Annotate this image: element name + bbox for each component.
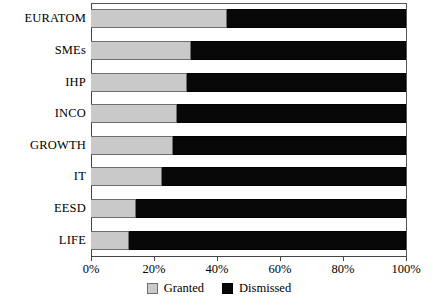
chart-page: EURATOMSMEsIHPINCOGROWTHITEESDLIFE 0%20%… — [0, 0, 438, 308]
legend-item-dismissed[interactable]: Dismissed — [222, 281, 291, 296]
y-axis-label-ihp: IHP — [2, 75, 86, 90]
bar-segment-dismissed — [136, 199, 406, 218]
legend-label-dismissed: Dismissed — [239, 281, 291, 296]
x-tick-label-80pct: 80% — [320, 262, 366, 277]
x-tick-label-40pct: 40% — [194, 262, 240, 277]
bar-track — [91, 9, 406, 28]
bar-segment-granted — [91, 136, 173, 155]
bar-segment-dismissed — [187, 73, 406, 92]
bar-segment-dismissed — [162, 167, 406, 186]
legend-swatch-granted — [147, 283, 158, 294]
bar-segment-granted — [91, 9, 227, 28]
bar-track — [91, 104, 406, 123]
x-tick-label-20pct: 20% — [131, 262, 177, 277]
chart-legend: GrantedDismissed — [0, 281, 438, 296]
x-tick-label-0pct: 0% — [68, 262, 114, 277]
y-axis-label-eesd: EESD — [2, 201, 86, 216]
bar-track — [91, 167, 406, 186]
x-tick-mark — [217, 257, 218, 261]
x-tick-label-60pct: 60% — [257, 262, 303, 277]
bar-segment-granted — [91, 231, 129, 250]
bar-track — [91, 231, 406, 250]
bar-segment-dismissed — [191, 41, 406, 60]
bar-segment-granted — [91, 167, 162, 186]
x-tick-mark — [280, 257, 281, 261]
bar-track — [91, 136, 406, 155]
bar-segment-dismissed — [177, 104, 406, 123]
bar-segment-granted — [91, 199, 136, 218]
legend-label-granted: Granted — [164, 281, 204, 296]
bar-segment-granted — [91, 41, 191, 60]
y-axis-labels: EURATOMSMEsIHPINCOGROWTHITEESDLIFE — [0, 3, 86, 256]
legend-swatch-dismissed — [222, 283, 233, 294]
y-axis-label-it: IT — [2, 169, 86, 184]
x-tick-mark — [343, 257, 344, 261]
y-axis-label-euratom: EURATOM — [2, 11, 86, 26]
y-axis-label-inco: INCO — [2, 106, 86, 121]
bar-track — [91, 199, 406, 218]
y-axis-label-growth: GROWTH — [2, 138, 86, 153]
legend-item-granted[interactable]: Granted — [147, 281, 204, 296]
bar-segment-granted — [91, 104, 177, 123]
bar-segment-granted — [91, 73, 187, 92]
plot-area — [91, 3, 406, 256]
x-axis-line — [91, 256, 407, 257]
y-axis-label-life: LIFE — [2, 233, 86, 248]
y-axis-label-smes: SMEs — [2, 43, 86, 58]
x-tick-label-100pct: 100% — [383, 262, 429, 277]
bar-segment-dismissed — [129, 231, 406, 250]
x-tick-mark — [154, 257, 155, 261]
bar-track — [91, 73, 406, 92]
x-tick-mark — [406, 257, 407, 261]
bar-segment-dismissed — [173, 136, 406, 155]
plot-right-border — [406, 3, 407, 257]
x-tick-mark — [91, 257, 92, 261]
bar-segment-dismissed — [227, 9, 406, 28]
bar-track — [91, 41, 406, 60]
